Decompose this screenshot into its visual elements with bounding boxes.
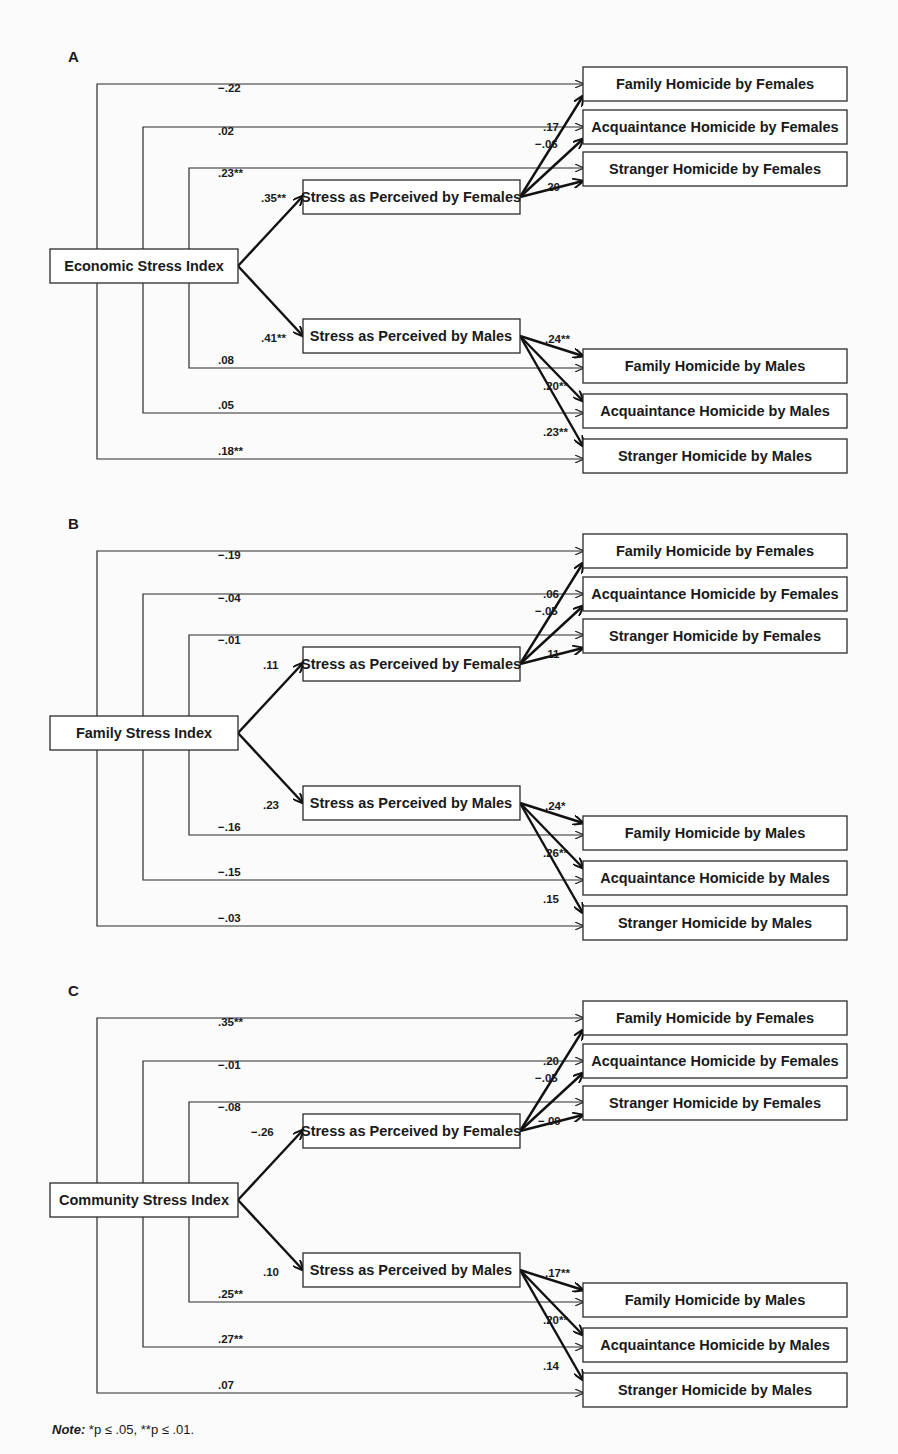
path-predictor-to-male-mediator	[238, 266, 303, 336]
coef-direct-acquaintance-male: −.15	[218, 866, 241, 878]
outcome-box-family-male: Family Homicide by Males	[583, 349, 847, 383]
coef-male-mediator-stranger: .23**	[543, 426, 568, 438]
path-predictor-to-female-mediator	[238, 1130, 303, 1200]
coef-direct-stranger-male: −.03	[218, 912, 241, 924]
svg-text:Stress as Perceived by Males: Stress as Perceived by Males	[310, 795, 512, 811]
coef-predictor-male-mediator: .41**	[261, 332, 286, 344]
svg-text:Acquaintance Homicide by Males: Acquaintance Homicide by Males	[600, 1337, 830, 1353]
coef-female-mediator-acquaintance: −.05	[535, 1072, 558, 1084]
female-mediator-box: Stress as Perceived by Females	[301, 647, 521, 681]
direct-path-stranger-male	[97, 1217, 583, 1393]
coef-direct-acquaintance-male: .27**	[218, 1333, 243, 1345]
panel-b: B −.19 −.04 −.01 −.16 −.15 −.03 .11 .23 …	[50, 515, 847, 940]
direct-path-family-female	[97, 1018, 583, 1183]
svg-text:Stranger Homicide by Males: Stranger Homicide by Males	[618, 915, 812, 931]
coef-direct-acquaintance-male: .05	[218, 399, 235, 411]
coef-male-mediator-stranger: .15	[543, 893, 560, 905]
svg-text:Acquaintance Homicide by Femal: Acquaintance Homicide by Females	[591, 119, 838, 135]
coef-male-mediator-acquaintance: .20**	[543, 380, 568, 392]
path-predictor-to-female-mediator	[238, 663, 303, 733]
outcome-box-stranger-female: Stranger Homicide by Females	[583, 619, 847, 653]
coef-predictor-female-mediator: .11	[263, 659, 279, 671]
outcome-box-acquaintance-male: Acquaintance Homicide by Males	[583, 394, 847, 428]
coef-female-mediator-stranger: −.09	[538, 1115, 561, 1127]
coef-female-mediator-acquaintance: −.06	[535, 138, 558, 150]
svg-text:Stress as Perceived by Females: Stress as Perceived by Females	[301, 656, 521, 672]
svg-text:Family Homicide by Males: Family Homicide by Males	[625, 1292, 806, 1308]
coef-predictor-female-mediator: .35**	[261, 192, 286, 204]
coef-direct-acquaintance-female: −.01	[218, 1059, 241, 1071]
coef-direct-stranger-female: −.08	[218, 1101, 241, 1113]
panel-label: A	[68, 48, 79, 65]
coef-direct-family-male: −.16	[218, 821, 241, 833]
direct-path-family-female	[97, 84, 583, 249]
coef-direct-family-male: .08	[218, 354, 235, 366]
svg-text:Family Homicide by Females: Family Homicide by Females	[616, 76, 814, 92]
panel-label: C	[68, 982, 79, 999]
coef-male-mediator-acquaintance: .20**	[543, 1314, 568, 1326]
path-predictor-to-male-mediator	[238, 733, 303, 803]
outcome-box-acquaintance-female: Acquaintance Homicide by Females	[583, 1044, 847, 1078]
svg-text:Stress as Perceived by Females: Stress as Perceived by Females	[301, 1123, 521, 1139]
svg-text:Acquaintance Homicide by Males: Acquaintance Homicide by Males	[600, 403, 830, 419]
direct-path-stranger-male	[97, 750, 583, 926]
svg-text:Stranger Homicide by Females: Stranger Homicide by Females	[609, 1095, 821, 1111]
svg-text:Stranger Homicide by Males: Stranger Homicide by Males	[618, 1382, 812, 1398]
svg-text:Stranger Homicide by Males: Stranger Homicide by Males	[618, 448, 812, 464]
coef-male-mediator-acquaintance: .26**	[543, 847, 568, 859]
direct-path-family-female	[97, 551, 583, 716]
predictor-box: Family Stress Index	[50, 716, 238, 750]
panel-c: C .35** −.01 −.08 .25** .27** .07 −.26 .…	[50, 982, 847, 1407]
coef-female-mediator-family: .06	[543, 588, 559, 600]
svg-text:Acquaintance Homicide by Femal: Acquaintance Homicide by Females	[591, 1053, 838, 1069]
path-predictor-to-male-mediator	[238, 1200, 303, 1270]
svg-text:Stranger Homicide by Females: Stranger Homicide by Females	[609, 161, 821, 177]
coef-direct-stranger-male: .07	[218, 1379, 234, 1391]
coef-direct-family-female: .35**	[218, 1016, 243, 1028]
coef-predictor-female-mediator: −.26	[251, 1126, 274, 1138]
outcome-box-acquaintance-female: Acquaintance Homicide by Females	[583, 110, 847, 144]
coef-predictor-male-mediator: .10	[263, 1266, 279, 1278]
outcome-box-acquaintance-female: Acquaintance Homicide by Females	[583, 577, 847, 611]
significance-note: Note: *p ≤ .05, **p ≤ .01.	[52, 1422, 194, 1437]
note-label: Note:	[52, 1422, 85, 1437]
coef-direct-family-female: −.22	[218, 82, 241, 94]
svg-text:Acquaintance Homicide by Femal: Acquaintance Homicide by Females	[591, 586, 838, 602]
panel-a: A −.22 .02 .23** .08 .05 .18** .35** .41…	[50, 48, 847, 473]
svg-text:Economic Stress Index: Economic Stress Index	[64, 258, 224, 274]
coef-direct-stranger-female: .23**	[218, 167, 243, 179]
coef-direct-acquaintance-female: .02	[218, 125, 234, 137]
predictor-box: Economic Stress Index	[50, 249, 238, 283]
coef-direct-stranger-male: .18**	[218, 445, 243, 457]
outcome-box-family-female: Family Homicide by Females	[583, 1001, 847, 1035]
svg-text:Community Stress Index: Community Stress Index	[59, 1192, 229, 1208]
svg-text:Stress as Perceived by Males: Stress as Perceived by Males	[310, 1262, 512, 1278]
svg-text:Family Homicide by Males: Family Homicide by Males	[625, 825, 806, 841]
male-mediator-box: Stress as Perceived by Males	[303, 1253, 520, 1287]
coef-female-mediator-stranger: .20	[544, 181, 560, 193]
outcome-box-family-female: Family Homicide by Females	[583, 534, 847, 568]
outcome-box-acquaintance-male: Acquaintance Homicide by Males	[583, 861, 847, 895]
outcome-box-acquaintance-male: Acquaintance Homicide by Males	[583, 1328, 847, 1362]
coef-male-mediator-family: .24**	[545, 333, 570, 345]
coef-direct-family-female: −.19	[218, 549, 241, 561]
coef-female-mediator-family: .17	[543, 121, 559, 133]
male-mediator-box: Stress as Perceived by Males	[303, 319, 520, 353]
outcome-box-family-male: Family Homicide by Males	[583, 816, 847, 850]
direct-path-stranger-male	[97, 283, 583, 459]
outcome-box-stranger-male: Stranger Homicide by Males	[583, 439, 847, 473]
path-diagram: A −.22 .02 .23** .08 .05 .18** .35** .41…	[0, 0, 898, 1454]
coef-female-mediator-acquaintance: −.05	[535, 605, 558, 617]
outcome-box-stranger-male: Stranger Homicide by Males	[583, 1373, 847, 1407]
outcome-box-stranger-female: Stranger Homicide by Females	[583, 152, 847, 186]
svg-text:Family Homicide by Females: Family Homicide by Females	[616, 1010, 814, 1026]
coef-female-mediator-family: .20	[543, 1055, 559, 1067]
svg-text:Stranger Homicide by Females: Stranger Homicide by Females	[609, 628, 821, 644]
svg-text:Family Homicide by Males: Family Homicide by Males	[625, 358, 806, 374]
male-mediator-box: Stress as Perceived by Males	[303, 786, 520, 820]
female-mediator-box: Stress as Perceived by Females	[301, 180, 521, 214]
note-text: *p ≤ .05, **p ≤ .01.	[85, 1422, 194, 1437]
panel-label: B	[68, 515, 79, 532]
coef-male-mediator-stranger: .14	[543, 1360, 560, 1372]
outcome-box-stranger-female: Stranger Homicide by Females	[583, 1086, 847, 1120]
